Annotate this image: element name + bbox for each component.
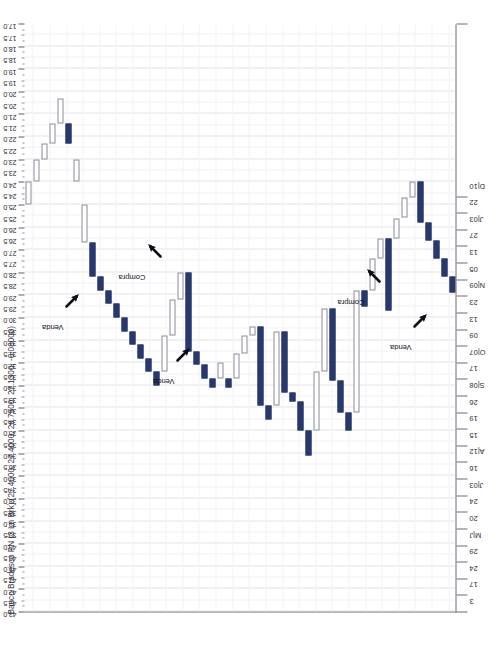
price-tick-label: 29.0 <box>3 293 16 301</box>
time-separator <box>456 23 467 24</box>
price-minor-tick <box>22 277 24 278</box>
time-tick-label: 05 <box>469 264 477 273</box>
price-minor-tick <box>22 221 24 222</box>
price-tick-label: 42.0 <box>3 587 16 595</box>
price-tick <box>18 385 24 386</box>
price-tick <box>21 283 24 284</box>
time-tick-label: 15 <box>469 430 477 439</box>
price-tick <box>21 419 24 420</box>
price-tick-label: 41.5 <box>3 575 16 583</box>
time-tick-label: 24 <box>469 563 477 572</box>
price-tick <box>21 396 24 397</box>
price-tick <box>18 204 24 205</box>
rotated-chart-canvas: Banco Bradesco PN (3 Ln Brk) (27.4000, 2… <box>0 0 503 654</box>
time-tick-label: 09 <box>469 330 477 339</box>
price-tick <box>18 430 24 431</box>
price-tick <box>18 362 24 363</box>
price-minor-tick <box>22 40 24 41</box>
time-axis[interactable]: 3172429M|J2024J|0316A|12151926S|0817O|07… <box>456 24 482 612</box>
time-tick-label: D|10 <box>469 181 484 190</box>
price-tick <box>21 600 24 601</box>
price-minor-tick <box>22 74 24 75</box>
price-tick-label: 35.0 <box>3 428 16 436</box>
price-minor-tick <box>22 85 24 86</box>
time-separator <box>456 295 467 296</box>
price-tick-label: 32.5 <box>3 372 16 380</box>
price-tick-label: 21.0 <box>3 112 16 120</box>
time-separator <box>456 345 467 346</box>
price-tick-label: 27.5 <box>3 259 16 267</box>
price-minor-tick <box>22 368 24 369</box>
time-tick-label: 13 <box>469 247 477 256</box>
time-tick-label: 3 <box>469 596 473 605</box>
time-tick-label: N|09 <box>469 280 484 289</box>
price-minor-tick <box>22 210 24 211</box>
price-tick-label: 21.5 <box>3 123 16 131</box>
price-minor-tick <box>22 345 24 346</box>
price-minor-tick <box>22 63 24 64</box>
price-tick-label: 37.5 <box>3 485 16 493</box>
price-tick <box>18 475 24 476</box>
price-tick <box>21 487 24 488</box>
price-tick <box>18 227 24 228</box>
price-tick-label: 25.0 <box>3 202 16 210</box>
price-tick-label: 39.0 <box>3 519 16 527</box>
price-tick <box>21 260 24 261</box>
price-minor-tick <box>22 594 24 595</box>
price-tick-label: 28.5 <box>3 281 16 289</box>
annotation-arrow-icon <box>175 346 191 362</box>
price-tick <box>18 159 24 160</box>
price-minor-tick <box>22 526 24 527</box>
time-separator <box>456 412 467 413</box>
price-tick-label: 36.0 <box>3 451 16 459</box>
price-tick-label: 22.5 <box>3 146 16 154</box>
price-minor-tick <box>22 142 24 143</box>
price-minor-tick <box>22 571 24 572</box>
time-tick-label: 26 <box>469 397 477 406</box>
time-tick-label: M|J <box>469 530 481 539</box>
price-tick <box>18 407 24 408</box>
time-tick-label: S|08 <box>469 380 484 389</box>
annotation-label: Venda <box>42 322 64 331</box>
price-tick-label: 43.0 <box>3 609 16 617</box>
price-tick <box>18 566 24 567</box>
time-separator <box>456 561 467 562</box>
price-tick-label: 34.0 <box>3 406 16 414</box>
time-tick-label: O|07 <box>469 347 485 356</box>
price-tick-label: 31.0 <box>3 338 16 346</box>
price-tick-label: 23.0 <box>3 157 16 165</box>
price-minor-tick <box>22 153 24 154</box>
time-separator <box>456 545 467 546</box>
price-tick <box>21 554 24 555</box>
annotation-label: Venda <box>390 342 412 351</box>
price-tick-label: 26.5 <box>3 236 16 244</box>
price-tick <box>21 577 24 578</box>
price-tick <box>18 588 24 589</box>
price-tick <box>18 91 24 92</box>
price-minor-tick <box>22 470 24 471</box>
time-tick-label: 17 <box>469 363 477 372</box>
price-minor-tick <box>22 481 24 482</box>
time-separator <box>456 594 467 595</box>
price-tick-label: 28.0 <box>3 270 16 278</box>
price-minor-tick <box>22 334 24 335</box>
price-tick-label: 30.0 <box>3 315 16 323</box>
price-tick <box>18 113 24 114</box>
time-separator <box>456 445 467 446</box>
price-minor-tick <box>22 29 24 30</box>
price-tick-label: 17.0 <box>3 21 16 29</box>
price-minor-tick <box>22 266 24 267</box>
time-separator <box>456 511 467 512</box>
time-tick-label: 29 <box>469 546 477 555</box>
price-minor-tick <box>22 300 24 301</box>
time-separator <box>456 262 467 263</box>
price-tick-label: 27.0 <box>3 248 16 256</box>
price-tick-label: 36.5 <box>3 462 16 470</box>
price-tick <box>21 80 24 81</box>
price-tick <box>18 249 24 250</box>
price-tick-label: 38.0 <box>3 496 16 504</box>
time-tick-label: 16 <box>469 463 477 472</box>
price-minor-tick <box>22 289 24 290</box>
price-minor-tick <box>22 515 24 516</box>
price-minor-tick <box>22 379 24 380</box>
